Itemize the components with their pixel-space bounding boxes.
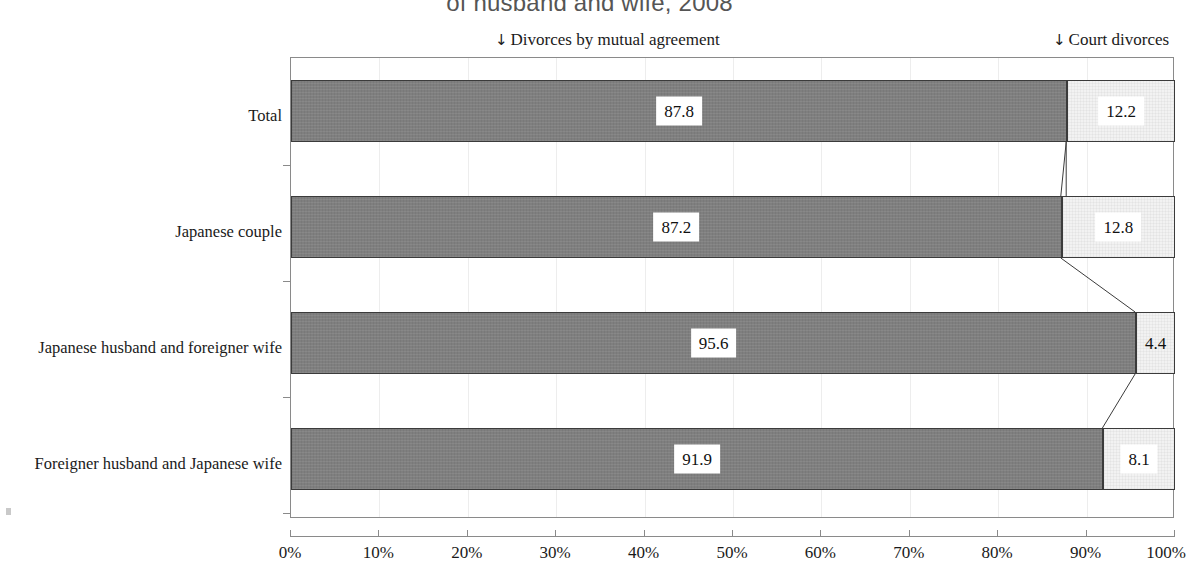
bar-segment-mutual-agreement[interactable]: 87.2	[291, 196, 1062, 258]
bar-segment-court-divorces[interactable]: 12.2	[1067, 80, 1175, 142]
bar-segment-mutual-agreement[interactable]: 91.9	[291, 428, 1103, 490]
x-axis-tick	[644, 530, 645, 537]
x-axis-tick-label: 0%	[279, 543, 302, 563]
bar-value-label: 8.1	[1121, 445, 1158, 474]
bar-row: 87.8 12.2	[291, 80, 1175, 142]
chart-title: of husband and wife, 2008	[0, 0, 1179, 17]
x-axis-tick-label: 20%	[451, 543, 482, 563]
bar-segment-court-divorces[interactable]: 8.1	[1103, 428, 1175, 490]
annotation-court-divorces: ↓Court divorces	[1053, 30, 1169, 50]
bar-segment-court-divorces[interactable]: 4.4	[1136, 312, 1175, 374]
x-axis-tick	[820, 530, 821, 537]
category-label-japanese-couple: Japanese couple	[0, 222, 282, 242]
scan-artifact	[6, 508, 11, 515]
bar-value-label: 4.4	[1144, 333, 1167, 354]
bar-value-label: 91.9	[674, 445, 720, 474]
x-axis-tick-label: 90%	[1070, 543, 1101, 563]
x-axis-tick	[1086, 530, 1087, 537]
bar-row: 95.6 4.4	[291, 312, 1175, 374]
down-arrow-icon: ↓	[1053, 31, 1066, 49]
x-axis-tick-label: 10%	[363, 543, 394, 563]
category-label-foreigner-husband-japanese-wife: Foreigner husband and Japanese wife	[0, 454, 282, 474]
x-axis-tick	[909, 530, 910, 537]
annotation-mutual-agreement-label: Divorces by mutual agreement	[511, 30, 720, 49]
annotation-court-divorces-label: Court divorces	[1069, 30, 1170, 49]
category-label-total: Total	[0, 106, 282, 126]
annotation-mutual-agreement: ↓Divorces by mutual agreement	[495, 30, 720, 50]
bar-value-label: 12.2	[1098, 97, 1144, 126]
bar-row: 91.9 8.1	[291, 428, 1175, 490]
down-arrow-icon: ↓	[495, 31, 508, 49]
x-axis-tick	[1174, 530, 1175, 537]
bar-value-label: 95.6	[691, 329, 737, 358]
bar-segment-court-divorces[interactable]: 12.8	[1062, 196, 1175, 258]
x-axis-tick-label: 60%	[805, 543, 836, 563]
plot-area: 87.8 12.2 87.2 12.8 95.6 4.4	[290, 57, 1174, 518]
x-axis-tick	[290, 530, 291, 537]
x-axis-tick	[997, 530, 998, 537]
x-axis-tick-label: 70%	[893, 543, 924, 563]
x-axis-tick-label: 80%	[982, 543, 1013, 563]
category-label-japanese-husband-foreigner-wife: Japanese husband and foreigner wife	[0, 338, 282, 358]
x-axis-tick-label: 50%	[716, 543, 747, 563]
x-axis-tick	[467, 530, 468, 537]
x-axis-tick	[555, 530, 556, 537]
bar-value-label: 12.8	[1096, 213, 1142, 242]
x-axis-tick	[732, 530, 733, 537]
bar-segment-mutual-agreement[interactable]: 95.6	[291, 312, 1136, 374]
x-axis-tick-label: 40%	[628, 543, 659, 563]
x-axis-tick-label: 30%	[540, 543, 571, 563]
x-axis-tick	[378, 530, 379, 537]
bar-value-label: 87.8	[656, 97, 702, 126]
bar-value-label: 87.2	[654, 213, 700, 242]
bar-row: 87.2 12.8	[291, 196, 1175, 258]
bar-segment-mutual-agreement[interactable]: 87.8	[291, 80, 1067, 142]
x-axis-tick-label: 100%	[1146, 543, 1186, 563]
